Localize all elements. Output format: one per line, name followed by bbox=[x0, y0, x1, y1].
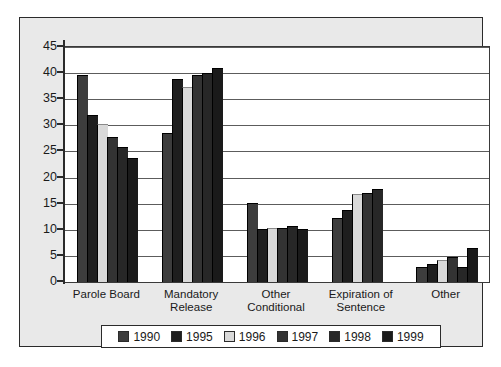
y-axis-tick-label: 30 bbox=[21, 118, 57, 130]
legend-label: 1995 bbox=[186, 331, 213, 343]
legend-swatch-icon bbox=[277, 331, 288, 342]
legend-label: 1996 bbox=[239, 331, 266, 343]
legend-label: 1997 bbox=[292, 331, 319, 343]
legend-label: 1998 bbox=[344, 331, 371, 343]
legend-label: 1999 bbox=[397, 331, 424, 343]
x-axis-category-line: Sentence bbox=[306, 301, 415, 314]
y-axis-tick-label: 0 bbox=[21, 275, 57, 287]
y-axis-tick bbox=[57, 176, 64, 178]
legend-item: 1999 bbox=[382, 331, 424, 343]
legend-item: 1996 bbox=[224, 331, 266, 343]
legend-swatch-icon bbox=[329, 331, 340, 342]
y-axis-tick bbox=[57, 97, 64, 99]
legend-item: 1995 bbox=[171, 331, 213, 343]
y-axis-tick bbox=[57, 228, 64, 230]
plot-area bbox=[64, 46, 490, 283]
y-axis-tick-label: 15 bbox=[21, 197, 57, 209]
bars-layer bbox=[65, 47, 489, 282]
chart-panel: 454035302520151050 Parole BoardMandatory… bbox=[19, 17, 483, 347]
y-axis-tick bbox=[57, 149, 64, 151]
y-axis-tick-label: 45 bbox=[21, 40, 57, 52]
chart-figure: 454035302520151050 Parole BoardMandatory… bbox=[0, 0, 501, 367]
y-axis-tick bbox=[57, 280, 64, 282]
y-axis-tick bbox=[57, 71, 64, 73]
legend-item: 1997 bbox=[277, 331, 319, 343]
legend-swatch-icon bbox=[171, 331, 182, 342]
x-axis-category-line: Other bbox=[391, 288, 500, 301]
y-axis-tick-label: 10 bbox=[21, 223, 57, 235]
y-axis-tick-label: 40 bbox=[21, 66, 57, 78]
y-axis-tick-label: 5 bbox=[21, 249, 57, 261]
x-axis-category-label: Other bbox=[391, 288, 500, 301]
legend-label: 1990 bbox=[133, 331, 160, 343]
legend-swatch-icon bbox=[382, 331, 393, 342]
y-axis-tick bbox=[57, 202, 64, 204]
legend-swatch-icon bbox=[224, 331, 235, 342]
y-axis-tick-label: 25 bbox=[21, 144, 57, 156]
legend-item: 1990 bbox=[118, 331, 160, 343]
bar bbox=[212, 68, 223, 282]
legend-item: 1998 bbox=[329, 331, 371, 343]
chart-legend: 199019951996199719981999 bbox=[101, 325, 441, 348]
bar bbox=[467, 248, 478, 282]
y-axis-line bbox=[63, 40, 65, 284]
bar bbox=[297, 229, 308, 282]
y-axis-tick-label: 20 bbox=[21, 171, 57, 183]
legend-swatch-icon bbox=[118, 331, 129, 342]
y-axis-tick bbox=[57, 123, 64, 125]
y-axis-tick-label: 35 bbox=[21, 92, 57, 104]
y-axis-tick bbox=[57, 254, 64, 256]
y-axis-tick bbox=[57, 45, 64, 47]
bar bbox=[372, 189, 383, 282]
bar bbox=[127, 158, 138, 282]
